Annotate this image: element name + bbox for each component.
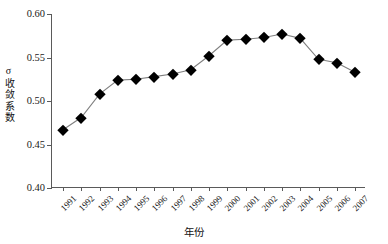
x-axis-tick-label: 1998 bbox=[187, 194, 206, 213]
x-axis-tick bbox=[173, 187, 174, 191]
y-axis-tick-label: 0.50 bbox=[27, 96, 45, 107]
x-axis-title: 年份 bbox=[0, 224, 388, 239]
x-axis-tick-label: 1996 bbox=[151, 194, 170, 213]
x-axis-tick bbox=[227, 187, 228, 191]
x-axis-tick bbox=[154, 187, 155, 191]
x-axis-tick-label: 2004 bbox=[297, 194, 316, 213]
x-axis-tick-label: 2005 bbox=[315, 194, 334, 213]
x-axis-tick bbox=[191, 187, 192, 191]
x-axis-tick-label: 1993 bbox=[96, 194, 115, 213]
x-axis-tick bbox=[300, 187, 301, 191]
chart-container: σ收敛系数 0.600.550.500.450.4019911992199319… bbox=[0, 0, 388, 244]
y-axis-tick-label: 0.40 bbox=[27, 183, 45, 194]
plot-area: 0.600.550.500.450.4019911992199319941995… bbox=[51, 14, 365, 188]
x-axis-tick bbox=[264, 187, 265, 191]
x-axis-tick bbox=[337, 187, 338, 191]
x-axis-tick-label: 2002 bbox=[260, 194, 279, 213]
x-axis-tick bbox=[100, 187, 101, 191]
series-line bbox=[52, 14, 366, 188]
y-axis-tick bbox=[47, 58, 52, 59]
x-axis-tick-label: 2001 bbox=[242, 194, 261, 213]
x-axis-tick bbox=[118, 187, 119, 191]
x-axis-tick-label: 1994 bbox=[114, 194, 133, 213]
y-axis-title-text: σ收敛系数 bbox=[3, 65, 13, 124]
x-axis-tick-label: 2000 bbox=[224, 194, 243, 213]
x-axis-tick bbox=[63, 187, 64, 191]
x-axis-tick bbox=[246, 187, 247, 191]
x-axis-tick-label: 1997 bbox=[169, 194, 188, 213]
x-axis-tick-label: 1991 bbox=[59, 194, 78, 213]
y-axis-tick bbox=[47, 14, 52, 15]
x-axis-tick-label: 2007 bbox=[351, 194, 370, 213]
y-axis-tick-label: 0.55 bbox=[27, 52, 45, 63]
x-axis-tick-label: 2003 bbox=[278, 194, 297, 213]
x-axis-tick-label: 1992 bbox=[78, 194, 97, 213]
y-axis-tick-label: 0.45 bbox=[27, 139, 45, 150]
y-axis-tick bbox=[47, 145, 52, 146]
x-axis-tick-label: 1999 bbox=[205, 194, 224, 213]
x-axis-tick bbox=[209, 187, 210, 191]
y-axis-tick bbox=[47, 101, 52, 102]
x-axis-tick bbox=[282, 187, 283, 191]
x-axis-tick bbox=[355, 187, 356, 191]
y-axis-tick bbox=[47, 188, 52, 189]
x-axis-tick-label: 2006 bbox=[333, 194, 352, 213]
x-axis-tick bbox=[319, 187, 320, 191]
x-axis-tick bbox=[136, 187, 137, 191]
y-axis-tick-label: 0.60 bbox=[27, 9, 45, 20]
x-axis-tick-label: 1995 bbox=[132, 194, 151, 213]
y-axis-title: σ收敛系数 bbox=[0, 0, 16, 188]
x-axis-tick bbox=[81, 187, 82, 191]
